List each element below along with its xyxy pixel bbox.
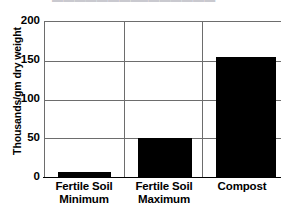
y-tick-label-150: 150 [4,54,40,66]
bar-compost [216,57,276,177]
bar-fertile-soil-minimum [58,172,111,177]
plot-area [44,21,281,177]
y-axis-tick-labels: 200 150 100 50 0 [2,0,40,214]
y-tick-label-200: 200 [4,15,40,27]
x-label-fertile-soil-minimum: Fertile Soil Minimum [44,180,124,206]
clipped-header-remnant: ▬▬▬▬▬▬▬▬ ▬▬▬▬▬▬▬ [0,0,281,7]
y-tick-label-50: 50 [4,132,40,144]
x-label-line1: Compost [218,180,267,192]
x-label-line1: Fertile Soil [136,180,193,192]
y-tick-label-0: 0 [4,171,40,183]
x-label-line2: Minimum [44,193,124,206]
x-label-fertile-soil-maximum: Fertile Soil Maximum [125,180,203,206]
category-divider-2 [202,22,203,177]
x-label-line2: Maximum [125,193,203,206]
clipped-header-text-right: ▬▬▬▬▬▬▬ [137,0,215,4]
category-divider-1 [124,22,125,177]
y-tick-label-100: 100 [4,93,40,105]
x-axis-line [43,177,281,178]
bar-chart-figure: ▬▬▬▬▬▬▬▬ ▬▬▬▬▬▬▬ Thousands/gm dry weight… [0,0,281,214]
x-label-line1: Fertile Soil [56,180,113,192]
bar-fertile-soil-maximum [138,138,192,177]
x-label-compost: Compost [203,180,281,193]
clipped-header-text-left: ▬▬▬▬▬▬▬▬ [52,0,142,4]
x-axis-category-labels: Fertile Soil Minimum Fertile Soil Maximu… [44,180,281,214]
